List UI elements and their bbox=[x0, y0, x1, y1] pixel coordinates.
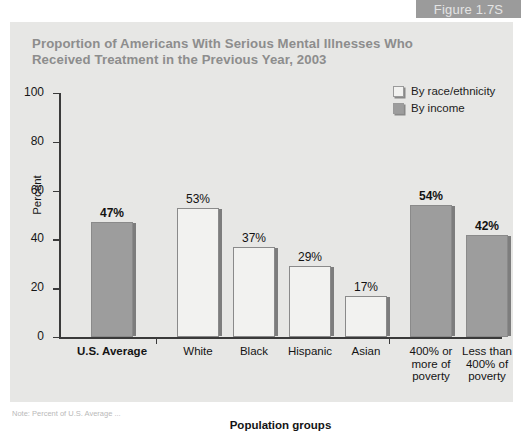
bar-value-label: 54% bbox=[419, 189, 443, 203]
x-axis-title: Population groups bbox=[59, 419, 502, 431]
bar-value-label: 37% bbox=[242, 231, 266, 245]
chart-title: Proportion of Americans With Serious Men… bbox=[32, 36, 432, 67]
y-axis-title: Percent bbox=[31, 175, 43, 215]
bar: 53% bbox=[177, 208, 219, 337]
y-tick-label-20: 20 bbox=[31, 280, 44, 294]
x-group-separator-2 bbox=[389, 338, 390, 344]
bar-value-label: 47% bbox=[100, 206, 124, 220]
chart-footnote: Note: Percent of U.S. Average ... bbox=[12, 409, 512, 420]
y-tick-label-80: 80 bbox=[31, 134, 44, 148]
y-tick-label-0: 0 bbox=[37, 329, 44, 343]
x-category-label: Asian bbox=[330, 345, 402, 358]
bar-value-label: 29% bbox=[298, 250, 322, 264]
y-tick-100: 100 bbox=[53, 93, 59, 94]
x-category-label: Less than 400% of poverty bbox=[451, 345, 521, 383]
y-tick-label-100: 100 bbox=[24, 85, 44, 99]
x-axis-line bbox=[59, 337, 502, 339]
y-tick-20: 20 bbox=[53, 288, 59, 289]
bar-value-label: 42% bbox=[475, 219, 499, 233]
y-tick-label-40: 40 bbox=[31, 231, 44, 245]
bar: 47% bbox=[91, 222, 133, 337]
x-category-label: U.S. Average bbox=[76, 345, 148, 358]
x-group-separator-1 bbox=[156, 338, 157, 344]
y-tick-40: 40 bbox=[53, 239, 59, 240]
figure-number-tab: Figure 1.7S bbox=[416, 0, 521, 18]
plot-area: 020406080100 Percent 47%53%37%29%17%54%4… bbox=[59, 93, 502, 337]
bar: 42% bbox=[466, 235, 508, 337]
bar-value-label: 17% bbox=[354, 280, 378, 294]
bar: 17% bbox=[345, 296, 387, 337]
bar: 54% bbox=[410, 205, 452, 337]
figure-number-label: Figure 1.7S bbox=[434, 2, 503, 17]
bar: 37% bbox=[233, 247, 275, 337]
chart-panel: Proportion of Americans With Serious Men… bbox=[10, 22, 513, 402]
y-tick-0: 0 bbox=[53, 337, 59, 338]
bar: 29% bbox=[289, 266, 331, 337]
y-tick-80: 80 bbox=[53, 142, 59, 143]
y-axis-line bbox=[59, 93, 61, 337]
bar-value-label: 53% bbox=[186, 192, 210, 206]
y-tick-60: 60 bbox=[53, 191, 59, 192]
